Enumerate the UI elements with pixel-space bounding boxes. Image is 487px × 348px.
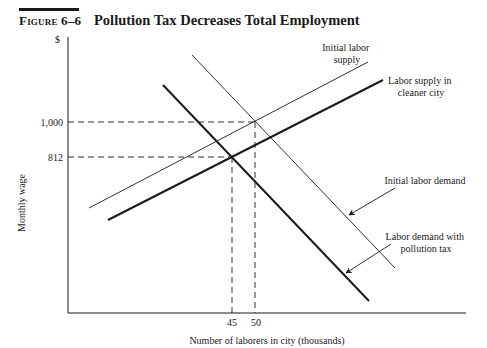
arrow-tax-demand — [346, 244, 391, 273]
annotation-cleaner-supply: Labor supply in cleaner city — [388, 75, 454, 98]
cleaner-city-supply-line — [108, 80, 383, 220]
y-tick-1000: 1,000 — [41, 117, 64, 128]
y-axis-title: Monthly wage — [16, 173, 27, 232]
initial-labor-supply-line — [89, 62, 368, 208]
chart-canvas: $ 1,000 812 45 50 Number of laborers in … — [0, 0, 487, 348]
annotation-initial-demand: Initial labor demand — [384, 175, 465, 186]
x-tick-50: 50 — [251, 317, 261, 328]
x-axis-title: Number of laborers in city (thousands) — [189, 335, 344, 347]
pollution-tax-demand-line — [163, 85, 369, 301]
annotation-tax-demand: Labor demand with pollution tax — [386, 231, 467, 254]
y-unit-label: $ — [55, 34, 60, 45]
annotation-initial-supply: Initial labor supply — [322, 42, 371, 65]
y-tick-812: 812 — [48, 152, 63, 163]
arrow-initial-demand — [349, 188, 395, 215]
x-tick-45: 45 — [227, 317, 237, 328]
